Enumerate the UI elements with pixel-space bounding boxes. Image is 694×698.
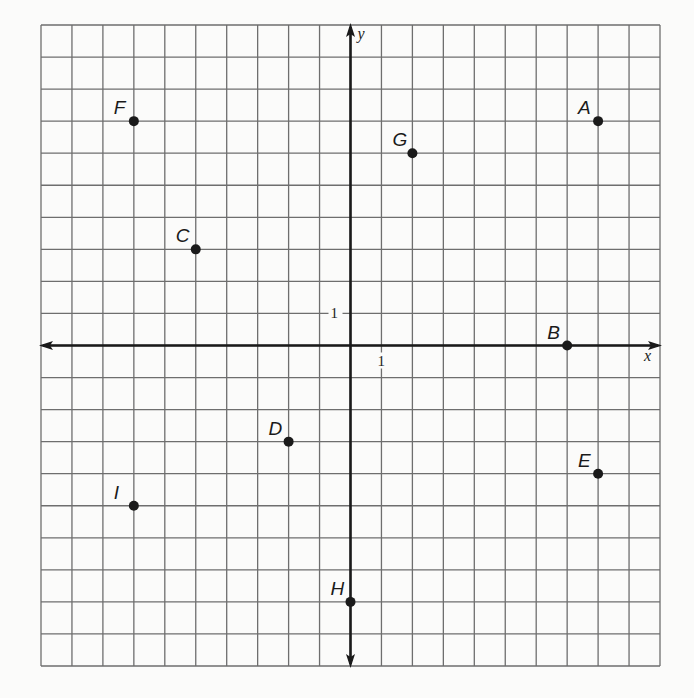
point-dot-icon [593, 469, 603, 479]
point-label: D [269, 418, 283, 439]
x-axis-label: x [643, 347, 651, 364]
point-label: I [114, 482, 120, 503]
data-points: ABCDEFGHI [114, 97, 603, 607]
point-label: B [547, 322, 560, 343]
point-dot-icon [593, 116, 603, 126]
point-dot-icon [346, 597, 356, 607]
coordinate-plane: 1 1 x y ABCDEFGHI [0, 0, 694, 698]
point-dot-icon [191, 244, 201, 254]
x-tick-label: 1 [377, 353, 385, 369]
point-dot-icon [129, 501, 139, 511]
point-dot-icon [407, 148, 417, 158]
point-label: F [114, 97, 127, 118]
point-label: A [577, 97, 591, 118]
y-tick-label: 1 [331, 305, 339, 321]
point-label: H [331, 578, 345, 599]
point-dot-icon [129, 116, 139, 126]
point-dot-icon [562, 341, 572, 351]
point-label: E [578, 450, 591, 471]
point-label: G [392, 129, 407, 150]
y-axis-label: y [356, 25, 366, 43]
point-label: C [176, 225, 190, 246]
point-dot-icon [284, 437, 294, 447]
